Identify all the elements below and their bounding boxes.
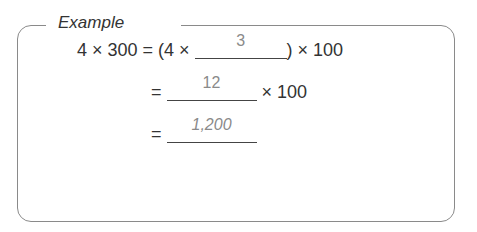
line-1-rhs: ) × 100 bbox=[287, 40, 344, 60]
answer-1: 3 bbox=[195, 30, 287, 52]
line-1-lhs: 4 × 300 = (4 × bbox=[77, 40, 195, 60]
equation-line-3: = 1,200 bbox=[151, 122, 257, 145]
answer-blank-1: 3 bbox=[195, 38, 287, 59]
line-2-lhs: = bbox=[151, 82, 167, 102]
answer-blank-2: 12 bbox=[167, 80, 257, 101]
equation-line-1: 4 × 300 = (4 × 3) × 100 bbox=[77, 38, 343, 61]
answer-blank-3: 1,200 bbox=[167, 122, 257, 143]
example-title: Example bbox=[52, 13, 130, 33]
answer-2: 12 bbox=[167, 72, 257, 94]
equation-line-2: = 12 × 100 bbox=[151, 80, 307, 103]
line-3-lhs: = bbox=[151, 124, 167, 144]
line-2-rhs: × 100 bbox=[257, 82, 308, 102]
answer-3: 1,200 bbox=[167, 114, 257, 136]
